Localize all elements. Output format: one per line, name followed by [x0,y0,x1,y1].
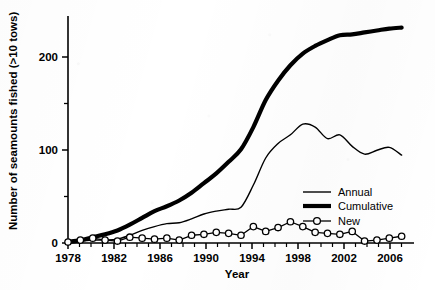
y-axis: 0 100 200 [39,16,68,249]
series-new-marker-2002 [361,238,367,244]
x-tick-label-1994: 1994 [239,252,265,264]
y-tick-label-200: 200 [39,51,58,63]
x-tick-label-1982: 1982 [101,252,127,264]
series-new-marker-1996 [287,219,293,225]
series-new-marker-1985 [151,236,157,242]
series-new-marker-1978 [65,239,71,245]
chart-svg: Number of seamounts fished (>10 tows) Ye… [0,0,435,290]
series-new-marker-1981 [102,237,108,243]
series-new-marker-1998 [312,229,318,235]
series-new-marker-2004 [386,235,392,241]
y-tick-label-0: 0 [52,237,58,249]
legend-label-new: New [338,215,360,227]
legend: Annual Cumulative New [303,186,393,227]
x-tick-label-2002: 2002 [331,252,357,264]
x-axis: 1978 1982 1986 1990 1994 1998 2002 2006 [55,243,414,264]
x-tick-label-2006: 2006 [377,252,403,264]
series-new-marker-1995 [275,224,281,230]
series-new-marker-1992 [238,232,244,238]
series-new-marker-1994 [263,228,269,234]
x-tick-label-1986: 1986 [147,252,173,264]
series-new-marker-1983 [127,234,133,240]
legend-label-cumulative: Cumulative [338,200,393,212]
series-new-marker-1997 [300,223,306,229]
x-tick-label-1978: 1978 [55,252,81,264]
series-new-marker-1986 [164,235,170,241]
series-new-marker-1999 [324,230,330,236]
series-new-marker-1984 [139,235,145,241]
series-new-marker-2000 [337,231,343,237]
series-new-marker-1991 [225,230,231,236]
y-tick-label-100: 100 [39,144,58,156]
series-new-marker-1993 [250,223,256,229]
series-new-marker-2003 [374,237,380,243]
series-new-marker-1979 [77,237,83,243]
legend-label-annual: Annual [338,186,372,198]
plot-area [65,28,405,246]
series-new-marker-1982 [114,238,120,244]
series-new-marker-1980 [90,235,96,241]
series-new-marker-1990 [213,229,219,235]
seamounts-fished-line-chart: Number of seamounts fished (>10 tows) Ye… [0,0,435,290]
series-new-marker-1988 [188,232,194,238]
x-axis-title: Year [225,268,250,280]
y-axis-title-group: Number of seamounts fished (>10 tows) [7,12,19,230]
y-axis-title: Number of seamounts fished (>10 tows) [7,12,19,230]
series-new-marker-1987 [176,237,182,243]
x-tick-label-1990: 1990 [193,252,219,264]
x-tick-label-1998: 1998 [285,252,311,264]
series-new-marker-2001 [349,228,355,234]
legend-swatch-new-marker [314,218,321,225]
series-new-marker-2005 [398,233,404,239]
series-new-marker-1989 [201,231,207,237]
